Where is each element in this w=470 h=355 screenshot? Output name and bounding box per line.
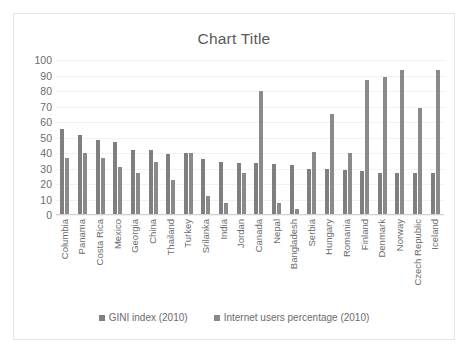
x-axis-tick-label: Costa Rica bbox=[95, 219, 105, 265]
x-axis-label-cell: Romania bbox=[338, 217, 356, 303]
legend-label: Internet users percentage (2010) bbox=[224, 312, 370, 323]
bar-group bbox=[56, 60, 74, 215]
bar[interactable] bbox=[113, 142, 117, 215]
x-axis-tick-label: Serbia bbox=[307, 219, 317, 246]
bar-group bbox=[109, 60, 127, 215]
x-axis-tick-label: Iceland bbox=[430, 219, 440, 250]
x-axis-label-cell: Iceland bbox=[426, 217, 444, 303]
x-axis-label-cell: Nepal bbox=[268, 217, 286, 303]
bar[interactable] bbox=[436, 70, 440, 215]
bar[interactable] bbox=[60, 129, 64, 215]
bar[interactable] bbox=[219, 162, 223, 215]
bar[interactable] bbox=[206, 196, 210, 215]
y-axis-tick-label: 10 bbox=[22, 195, 52, 205]
bar[interactable] bbox=[360, 171, 364, 215]
bar[interactable] bbox=[330, 114, 334, 215]
bar[interactable] bbox=[131, 150, 135, 215]
chart-container: Chart Title 1009080706050403020100 Colum… bbox=[13, 13, 455, 340]
bar[interactable] bbox=[171, 180, 175, 215]
bar[interactable] bbox=[343, 170, 347, 215]
bar[interactable] bbox=[154, 162, 158, 215]
bar[interactable] bbox=[272, 164, 276, 215]
y-axis-tick-label: 20 bbox=[22, 179, 52, 189]
legend-entry[interactable]: Internet users percentage (2010) bbox=[214, 312, 370, 323]
x-axis-tick-label: China bbox=[148, 219, 158, 244]
x-axis-label-cell: India bbox=[215, 217, 233, 303]
bar-group bbox=[91, 60, 109, 215]
x-axis-label-cell: Turkey bbox=[179, 217, 197, 303]
chart-legend: GINI index (2010)Internet users percenta… bbox=[14, 312, 454, 323]
bar[interactable] bbox=[418, 108, 422, 215]
y-axis-tick-label: 60 bbox=[22, 117, 52, 127]
x-axis-tick-label: Bangladesh bbox=[289, 219, 299, 269]
bar[interactable] bbox=[166, 154, 170, 215]
bar[interactable] bbox=[65, 158, 69, 215]
x-axis-label-cell: Denmark bbox=[374, 217, 392, 303]
bar[interactable] bbox=[237, 163, 241, 215]
x-axis-tick-label: Mexico bbox=[113, 219, 123, 249]
x-axis-label-cell: Jordan bbox=[232, 217, 250, 303]
x-axis-label-cell: Czech Republic bbox=[409, 217, 427, 303]
bar[interactable] bbox=[201, 159, 205, 215]
bar[interactable] bbox=[325, 169, 329, 215]
x-axis-label-cell: Hungary bbox=[321, 217, 339, 303]
bar[interactable] bbox=[378, 173, 382, 215]
bar-group bbox=[374, 60, 392, 215]
bar-group bbox=[391, 60, 409, 215]
bar-group bbox=[268, 60, 286, 215]
x-axis-tick-label: Georgia bbox=[130, 219, 140, 253]
bar[interactable] bbox=[312, 152, 316, 215]
x-axis-category-labels: ColumbiaPanamaCosta RicaMexicoGeorgiaChi… bbox=[56, 217, 444, 303]
bar-group bbox=[127, 60, 145, 215]
bar[interactable] bbox=[78, 135, 82, 215]
bar[interactable] bbox=[254, 163, 258, 215]
y-axis-tick-label: 40 bbox=[22, 148, 52, 158]
bar[interactable] bbox=[136, 173, 140, 215]
y-axis-tick-label: 90 bbox=[22, 71, 52, 81]
bar[interactable] bbox=[101, 158, 105, 215]
bar[interactable] bbox=[118, 167, 122, 215]
x-axis-tick-label: India bbox=[219, 219, 229, 240]
legend-swatch-icon bbox=[214, 315, 220, 321]
bar-group bbox=[321, 60, 339, 215]
gridline bbox=[56, 215, 444, 216]
bar-group bbox=[338, 60, 356, 215]
bar[interactable] bbox=[413, 173, 417, 215]
y-axis-tick-label: 70 bbox=[22, 102, 52, 112]
bar-group bbox=[197, 60, 215, 215]
bar[interactable] bbox=[83, 153, 87, 215]
x-axis-tick-label: Turkey bbox=[183, 219, 193, 248]
bar-group bbox=[179, 60, 197, 215]
x-axis-label-cell: Bangladesh bbox=[285, 217, 303, 303]
x-axis-tick-label: Hungary bbox=[324, 219, 334, 255]
x-axis-label-cell: Costa Rica bbox=[91, 217, 109, 303]
bar[interactable] bbox=[242, 173, 246, 215]
bar[interactable] bbox=[290, 165, 294, 215]
bar[interactable] bbox=[395, 173, 399, 215]
bar-group bbox=[215, 60, 233, 215]
legend-entry[interactable]: GINI index (2010) bbox=[99, 312, 188, 323]
x-axis-tick-label: Jordan bbox=[236, 219, 246, 248]
bar-group bbox=[409, 60, 427, 215]
legend-swatch-icon bbox=[99, 315, 105, 321]
x-axis-tick-label: Romania bbox=[342, 219, 352, 257]
x-axis-tick-label: Nepal bbox=[272, 219, 282, 244]
bar[interactable] bbox=[149, 150, 153, 215]
x-axis-line bbox=[56, 214, 444, 215]
x-axis-tick-label: Canada bbox=[254, 219, 264, 252]
bar[interactable] bbox=[400, 70, 404, 215]
bar[interactable] bbox=[383, 77, 387, 215]
bar[interactable] bbox=[365, 80, 369, 215]
bar[interactable] bbox=[96, 140, 100, 215]
y-axis-tick-label: 50 bbox=[22, 133, 52, 143]
bar[interactable] bbox=[431, 173, 435, 215]
bar[interactable] bbox=[307, 169, 311, 215]
bar[interactable] bbox=[259, 91, 263, 215]
x-axis-label-cell: Panama bbox=[74, 217, 92, 303]
bar[interactable] bbox=[184, 153, 188, 215]
x-axis-tick-label: Finland bbox=[360, 219, 370, 250]
bar[interactable] bbox=[189, 153, 193, 215]
bar[interactable] bbox=[348, 153, 352, 215]
x-axis-label-cell: Norway bbox=[391, 217, 409, 303]
plot-area bbox=[56, 60, 444, 215]
